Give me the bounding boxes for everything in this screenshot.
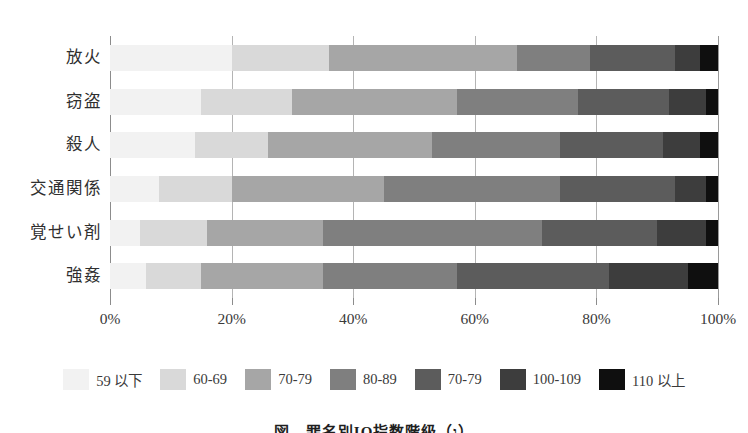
chart-legend: 59 以下60-6970-7980-8970-79100-109110 以上 [0,362,748,396]
bar-segment [384,176,560,202]
bar-segment [657,220,706,246]
bar-row: 窃盗 [110,89,718,115]
bar-segment [675,176,705,202]
legend-label: 59 以下 [96,369,142,390]
legend-swatch-icon [245,369,271,390]
legend-item[interactable]: 70-79 [245,369,312,390]
bar-segment [110,45,232,71]
x-tick [232,298,233,305]
gridline-60 [475,36,476,298]
legend-swatch-icon [63,369,89,390]
bar-row: 殺人 [110,132,718,158]
bar-segment [195,132,268,158]
x-tick-label: 40% [318,310,388,328]
category-label: 窃盗 [2,89,102,115]
category-label: 覚せい剤 [2,220,102,246]
plot-area: 放火窃盗殺人交通関係覚せい剤強姦 [110,36,718,298]
bar-segment [457,89,579,115]
bar-segment [706,89,718,115]
x-tick-label: 80% [561,310,631,328]
bar-row: 覚せい剤 [110,220,718,246]
bar-segment [323,263,457,289]
bar-segment [688,263,718,289]
legend-item[interactable]: 60-69 [160,369,227,390]
bar-segment [457,263,609,289]
bar-segment [700,45,718,71]
bar-row: 交通関係 [110,176,718,202]
category-label: 放火 [2,45,102,71]
x-tick [110,298,111,305]
bar-row: 放火 [110,45,718,71]
x-axis: 0%20%40%60%80%100% [110,298,718,306]
gridline-20 [232,36,233,298]
legend-item[interactable]: 59 以下 [63,369,142,390]
bar-segment [669,89,705,115]
bar-segment [201,263,323,289]
category-label: 殺人 [2,132,102,158]
bar-segment [232,176,384,202]
x-tick-label: 100% [683,310,748,328]
legend-swatch-icon [415,369,441,390]
x-tick [353,298,354,305]
bar-segment [675,45,699,71]
bar-segment [590,45,675,71]
legend-label: 100-109 [533,371,581,388]
bar-segment [609,263,688,289]
legend-label: 70-79 [448,371,482,388]
category-label: 交通関係 [2,176,102,202]
legend-item[interactable]: 110 以上 [599,369,685,390]
bar-segment [706,220,718,246]
legend-swatch-icon [160,369,186,390]
bar-segment [146,263,201,289]
bar-segment [159,176,232,202]
bar-segment [140,220,207,246]
plot-frame [110,36,718,298]
figure-caption: 図 罪名別IQ指数階級（ו） [0,420,748,433]
bar-segment [542,220,658,246]
x-tick [475,298,476,305]
bar-segment [329,45,517,71]
bar-segment [323,220,542,246]
bar-segment [663,132,699,158]
legend-item[interactable]: 100-109 [500,369,581,390]
gridline-80 [596,36,597,298]
gridline-40 [353,36,354,298]
x-tick-label: 20% [197,310,267,328]
legend-item[interactable]: 80-89 [330,369,397,390]
bar-segment [560,176,676,202]
legend-label: 60-69 [193,371,227,388]
legend-swatch-icon [330,369,356,390]
legend-item[interactable]: 70-79 [415,369,482,390]
bar-segment [110,89,201,115]
gridline-100 [718,36,719,298]
bar-segment [517,45,590,71]
legend-swatch-icon [599,369,625,390]
bar-segment [201,89,292,115]
bar-segment [706,176,718,202]
legend-label: 110 以上 [632,369,685,390]
bar-segment [578,89,669,115]
bar-segment [110,176,159,202]
bar-segment [432,132,560,158]
bar-row: 強姦 [110,263,718,289]
legend-label: 70-79 [278,371,312,388]
x-tick [596,298,597,305]
bar-segment [700,132,718,158]
bar-segment [110,263,146,289]
bar-segment [207,220,323,246]
x-tick-label: 0% [75,310,145,328]
legend-swatch-icon [500,369,526,390]
x-tick-label: 60% [440,310,510,328]
legend-label: 80-89 [363,371,397,388]
chart-figure: 放火窃盗殺人交通関係覚せい剤強姦 0%20%40%60%80%100% 59 以… [0,0,748,433]
bar-segment [292,89,456,115]
bar-segment [110,132,195,158]
bar-segment [232,45,329,71]
x-tick [718,298,719,305]
bar-segment [110,220,140,246]
bar-segment [560,132,663,158]
bar-segment [268,132,432,158]
category-label: 強姦 [2,263,102,289]
